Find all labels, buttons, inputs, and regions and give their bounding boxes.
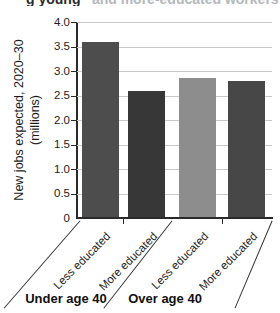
y-tick-label: 1.5: [37, 138, 70, 150]
bar-4: [228, 81, 265, 217]
y-tick-label: 0: [37, 212, 70, 224]
cropped-title-fragment-light: and more-educated workers: [92, 0, 279, 6]
y-tick-mark: [71, 22, 76, 23]
y-tick-mark: [71, 71, 76, 72]
y-tick-mark: [71, 194, 76, 195]
y-tick-label: 3.5: [37, 40, 70, 52]
y-tick-label: 0.5: [37, 187, 70, 199]
y-tick-mark: [71, 120, 76, 121]
y-tick-mark: [71, 169, 76, 170]
y-tick-label: 1.0: [37, 163, 70, 175]
x-axis-line: [76, 217, 273, 219]
bar-3: [179, 78, 216, 217]
y-tick-mark: [71, 47, 76, 48]
y-tick-label: 2.5: [37, 89, 70, 101]
group-label-1: Under age 40: [25, 291, 107, 306]
y-axis-title-line1: New jobs expected, 2020–30: [11, 15, 27, 225]
cropped-title: g young and more-educated workers: [0, 0, 280, 6]
bar-1: [82, 42, 119, 217]
bar-chart-figure: g young and more-educated workers New jo…: [0, 0, 280, 313]
group-label-2: Over age 40: [128, 291, 202, 306]
y-tick-label: 3.0: [37, 65, 70, 77]
gridline: [77, 22, 272, 23]
x-tick-mark: [222, 219, 223, 224]
plot-area: 4.03.53.02.52.01.51.00.50Less educatedMo…: [77, 22, 272, 218]
x-tick-mark: [123, 219, 124, 224]
y-tick-label: 2.0: [37, 114, 70, 126]
cropped-title-fragment-dark: g young: [26, 0, 80, 6]
bar-2: [128, 91, 165, 217]
y-tick-mark: [71, 145, 76, 146]
y-tick-label: 4.0: [37, 16, 70, 28]
y-tick-mark: [71, 96, 76, 97]
